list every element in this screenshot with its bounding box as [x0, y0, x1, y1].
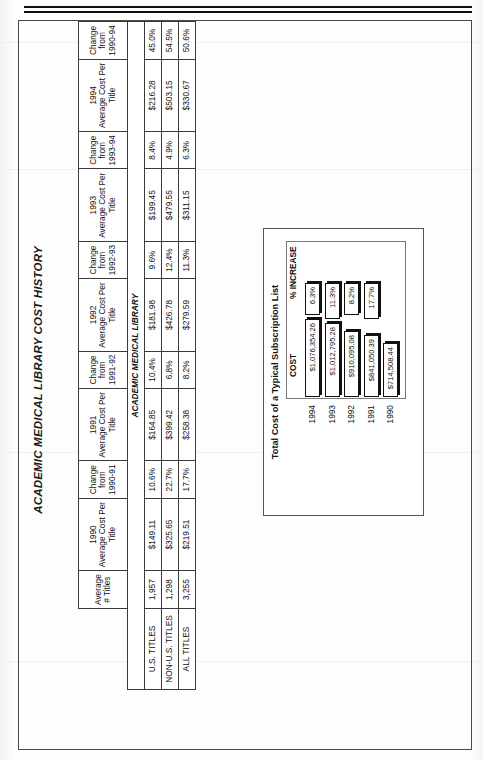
col-head-line3: 1990-91: [107, 464, 116, 494]
col-head-line3: Title: [107, 502, 116, 567]
col-head-line3: 1990-94: [107, 25, 116, 55]
chart-bar-cost-value: $910,095.08: [346, 335, 357, 377]
col-head-change-1993-94: Change from 1993-94: [78, 132, 127, 169]
table-row: NON-U.S. TITLES 1,298 $325.65 22.7% $399…: [161, 22, 178, 690]
col-head-line3: Title: [107, 63, 116, 128]
row-label: NON-U.S. TITLES: [161, 609, 178, 690]
cell-cost-1991: $399.42: [161, 389, 178, 461]
col-head-line3: 1991-92: [107, 355, 116, 385]
chart-title: Total Cost of a Typical Subscription Lis…: [270, 229, 280, 515]
table-body: ACADEMIC MEDICAL LIBRARY U.S. TITLES 1,9…: [127, 22, 195, 690]
col-head-line2: Average Cost Per: [98, 282, 107, 347]
col-head-line2: Average Cost Per: [98, 392, 107, 457]
col-head-line2: from: [98, 245, 107, 275]
col-head-line3: Title: [107, 392, 116, 457]
table-row: ALL TITLES 3,255 $219.51 17.7% $258.38 8…: [178, 22, 195, 690]
chart-bar-pct-value: 11.3%: [326, 287, 337, 308]
cell-change-1990-91: 17.7%: [178, 461, 195, 498]
col-head-line3: 1993-94: [107, 135, 116, 165]
col-head-line2: Average Cost Per: [98, 63, 107, 128]
cell-cost-1990: $325.65: [161, 498, 178, 570]
cell-cost-1992: $426.78: [161, 279, 178, 351]
cell-change-1990-94: 50.6%: [178, 22, 195, 59]
rotated-content-wrapper: ACADEMIC MEDICAL LIBRARY COST HISTORY Av…: [0, 0, 483, 760]
chart-bar-pct: 8.2%: [344, 283, 359, 315]
scanned-page: ACADEMIC MEDICAL LIBRARY COST HISTORY Av…: [0, 0, 483, 760]
cell-cost-1994: $330.67: [178, 59, 195, 131]
table-row: U.S. TITLES 1,957 $149.11 10.6% $164.85 …: [144, 22, 161, 690]
chart-bar-cost: $841,050.39: [363, 335, 378, 397]
cell-change-1993-94: 4.9%: [161, 132, 178, 169]
col-head-line3: # Titles: [103, 574, 112, 605]
cell-avg-titles: 1,298: [161, 571, 178, 609]
cell-cost-1991: $258.38: [178, 389, 195, 461]
chart-row: 1994 $1,076,354.26 6.3%: [303, 243, 323, 455]
cell-cost-1993: $479.55: [161, 169, 178, 241]
chart-row: 1991 $841,050.39 17.7%: [361, 243, 381, 455]
chart-category-label: 1992: [346, 405, 356, 455]
chart-bar-cost: $714,508.44: [383, 343, 398, 397]
chart-bar-cost-value: $841,050.39: [365, 339, 376, 381]
chart-bar-pct-value: 6.3%: [307, 287, 318, 304]
cell-avg-titles: 3,255: [178, 571, 195, 609]
cell-change-1993-94: 6.3%: [178, 132, 195, 169]
chart-column-headers: COST % INCREASE: [288, 243, 301, 399]
cell-change-1990-91: 10.6%: [144, 461, 161, 498]
col-head-line2: Average Cost Per: [98, 173, 107, 238]
chart-bar-pct: 6.3%: [305, 283, 320, 315]
chart-bar-cost: $1,076,354.26: [305, 319, 320, 397]
cell-cost-1993: $311.15: [178, 169, 195, 241]
cell-cost-1993: $199.45: [144, 169, 161, 241]
chart-category-label: 1990: [385, 405, 395, 455]
table-corner-cell: [78, 609, 127, 690]
cell-cost-1992: $181.98: [144, 279, 161, 351]
col-head-line3: Title: [107, 173, 116, 238]
cell-cost-1990: $149.11: [144, 498, 161, 570]
col-head-change-1990-91: Change from 1990-91: [78, 461, 127, 498]
cell-change-1992-93: 9.6%: [144, 241, 161, 278]
cell-cost-1994: $216.28: [144, 59, 161, 131]
cell-change-1991-92: 10.4%: [144, 351, 161, 388]
chart-bar-cost-value: $714,508.44: [385, 347, 396, 389]
col-head-change-1991-92: Change from 1991-92: [78, 351, 127, 388]
col-head-line3: Title: [107, 282, 116, 347]
cell-cost-1990: $219.51: [178, 498, 195, 570]
cell-change-1990-94: 45.0%: [144, 22, 161, 59]
cell-cost-1992: $279.59: [178, 279, 195, 351]
cell-change-1992-93: 11.3%: [178, 241, 195, 278]
col-head-cost-1991: 1991 Average Cost Per Title: [78, 389, 127, 461]
col-head-cost-1994: 1994 Average Cost Per Title: [78, 59, 127, 131]
chart-category-label: 1994: [307, 405, 317, 455]
row-label: ALL TITLES: [178, 609, 195, 690]
chart-row: 1993 $1,012,795.28 11.3%: [322, 243, 342, 455]
chart-rows: 1994 $1,076,354.26 6.3% 1993 $1,012,: [303, 243, 401, 455]
chart-plot-area: COST % INCREASE 1994 $1,076,354.26 6.3%: [286, 243, 414, 455]
cost-history-table: Average # Titles 1990 Average Cost Per T…: [78, 21, 196, 690]
subscription-cost-chart: Total Cost of a Typical Subscription Lis…: [263, 228, 424, 516]
col-head-line2: from: [98, 25, 107, 55]
col-head-cost-1990: 1990 Average Cost Per Title: [78, 498, 127, 570]
cell-avg-titles: 1,957: [144, 571, 161, 609]
row-label: U.S. TITLES: [144, 609, 161, 690]
cell-change-1991-92: 8.2%: [178, 351, 195, 388]
chart-col-head-cost: COST: [288, 354, 298, 377]
chart-bar-pct: 11.3%: [324, 283, 339, 319]
cell-change-1993-94: 8.4%: [144, 132, 161, 169]
col-head-cost-1993: 1993 Average Cost Per Title: [78, 169, 127, 241]
table-header-row: Average # Titles 1990 Average Cost Per T…: [78, 22, 127, 690]
chart-bar-pct-value: 8.2%: [346, 287, 357, 304]
printed-page: ACADEMIC MEDICAL LIBRARY COST HISTORY Av…: [16, 16, 468, 744]
chart-row: 1990 $714,508.44: [381, 243, 401, 455]
col-head-line2: Average Cost Per: [98, 502, 107, 567]
table-group-heading-row: ACADEMIC MEDICAL LIBRARY: [127, 22, 144, 690]
col-head-avg-titles: Average # Titles: [78, 571, 127, 609]
chart-bar-cost: $910,095.08: [344, 331, 359, 397]
cell-change-1992-93: 12.4%: [161, 241, 178, 278]
chart-col-head-pct: % INCREASE: [288, 246, 298, 299]
chart-category-label: 1993: [326, 405, 336, 455]
chart-bar-pct: 17.7%: [363, 283, 378, 319]
cell-change-1990-94: 54.5%: [161, 22, 178, 59]
chart-category-label: 1991: [365, 405, 375, 455]
chart-row: 1992 $910,095.08 8.2%: [342, 243, 362, 455]
chart-bar-cost-value: $1,076,354.26: [307, 323, 318, 372]
